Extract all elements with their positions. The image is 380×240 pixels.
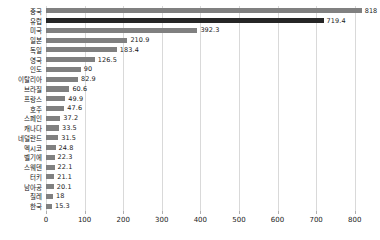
bar-row: 22.3	[46, 155, 374, 160]
bar-한국	[46, 204, 52, 209]
x-tick-label-100: 100	[78, 216, 91, 224]
bar-row: 22.1	[46, 165, 374, 170]
category-label-인도: 인도	[30, 64, 42, 74]
bar-value-label: 22.1	[58, 163, 73, 171]
bar-series: 818719.4392.3210.9183.4126.59082.960.649…	[46, 6, 374, 211]
bar-value-label: 818	[365, 7, 378, 15]
bar-chart: 중국유럽미국일본독일영국인도이탈리아브라질프랑스호주스페인캐나다네덜란드멕시코벨…	[0, 0, 380, 240]
bar-row: 82.9	[46, 77, 374, 82]
category-label-독일: 독일	[30, 45, 42, 55]
x-tick-400	[200, 211, 201, 214]
category-axis-labels: 중국유럽미국일본독일영국인도이탈리아브라질프랑스호주스페인캐나다네덜란드멕시코벨…	[0, 6, 44, 211]
bar-row: 392.3	[46, 28, 374, 33]
x-tick-100	[85, 211, 86, 214]
x-tick-label-300: 300	[155, 216, 168, 224]
bar-row: 20.1	[46, 184, 374, 189]
bar-벨기에	[46, 155, 55, 160]
bar-value-label: 31.5	[61, 134, 76, 142]
bar-value-label: 24.8	[59, 144, 74, 152]
bar-스웨덴	[46, 165, 55, 170]
bar-row: 21.1	[46, 174, 374, 179]
bar-유럽	[46, 18, 324, 23]
bar-남아공	[46, 184, 54, 189]
bar-row: 18	[46, 194, 374, 199]
bar-row: 31.5	[46, 135, 374, 140]
x-tick-label-700: 700	[309, 216, 322, 224]
bar-row: 37.2	[46, 116, 374, 121]
bar-value-label: 21.1	[57, 173, 72, 181]
bar-row: 49.9	[46, 96, 374, 101]
category-label-브라질: 브라질	[24, 84, 42, 94]
category-label-칠레: 칠레	[30, 191, 42, 201]
bar-row: 24.8	[46, 145, 374, 150]
bar-row: 15.3	[46, 204, 374, 209]
bar-value-label: 183.4	[120, 46, 139, 54]
plot-area: 818719.4392.3210.9183.4126.59082.960.649…	[46, 6, 374, 211]
bar-value-label: 18	[56, 192, 64, 200]
bar-row: 33.5	[46, 125, 374, 130]
x-tick-600	[278, 211, 279, 214]
category-label-호주: 호주	[30, 104, 42, 114]
bar-row: 126.5	[46, 57, 374, 62]
category-label-일본: 일본	[30, 35, 42, 45]
bar-캐나다	[46, 125, 59, 130]
bar-독일	[46, 47, 117, 52]
bar-칠레	[46, 194, 53, 199]
category-label-스페인: 스페인	[24, 113, 42, 123]
bar-멕시코	[46, 145, 56, 150]
x-tick-200	[123, 211, 124, 214]
bar-row: 719.4	[46, 18, 374, 23]
bar-터키	[46, 174, 54, 179]
bar-프랑스	[46, 96, 65, 101]
bar-value-label: 20.1	[57, 183, 72, 191]
bar-value-label: 126.5	[98, 56, 117, 64]
bar-row: 183.4	[46, 47, 374, 52]
x-tick-label-400: 400	[194, 216, 207, 224]
category-label-캐나다: 캐나다	[24, 123, 42, 133]
bar-네덜란드	[46, 135, 58, 140]
category-label-벨기에: 벨기에	[24, 152, 42, 162]
bar-중국	[46, 8, 362, 13]
x-tick-0	[46, 211, 47, 214]
bar-value-label: 90	[84, 65, 92, 73]
bar-스페인	[46, 116, 60, 121]
bar-value-label: 82.9	[81, 75, 96, 83]
bar-row: 818	[46, 8, 374, 13]
bar-value-label: 15.3	[55, 202, 70, 210]
bar-브라질	[46, 86, 69, 91]
bar-이탈리아	[46, 77, 78, 82]
bar-value-label: 33.5	[62, 124, 77, 132]
bar-영국	[46, 57, 95, 62]
x-tick-label-800: 800	[348, 216, 361, 224]
category-label-네덜란드: 네덜란드	[18, 133, 42, 143]
bar-미국	[46, 28, 197, 33]
bar-value-label: 210.9	[130, 36, 149, 44]
x-tick-800	[355, 211, 356, 214]
x-tick-300	[162, 211, 163, 214]
category-label-스웨덴: 스웨덴	[24, 162, 42, 172]
bar-value-label: 37.2	[63, 114, 78, 122]
bar-row: 60.6	[46, 86, 374, 91]
category-label-미국: 미국	[30, 25, 42, 35]
x-tick-label-600: 600	[271, 216, 284, 224]
bar-value-label: 47.6	[67, 104, 82, 112]
category-label-프랑스: 프랑스	[24, 94, 42, 104]
bar-인도	[46, 67, 81, 72]
bar-value-label: 392.3	[200, 26, 219, 34]
x-axis: 0100200300400500600700800	[46, 211, 374, 235]
bar-일본	[46, 38, 127, 43]
bar-row: 210.9	[46, 38, 374, 43]
category-label-터키: 터키	[30, 172, 42, 182]
bar-value-label: 719.4	[327, 17, 346, 25]
bar-value-label: 60.6	[72, 85, 87, 93]
x-tick-500	[239, 211, 240, 214]
category-label-남아공: 남아공	[24, 182, 42, 192]
bar-value-label: 49.9	[68, 95, 83, 103]
x-tick-700	[316, 211, 317, 214]
category-label-멕시코: 멕시코	[24, 143, 42, 153]
bar-호주	[46, 106, 64, 111]
category-label-이탈리아: 이탈리아	[18, 74, 42, 84]
bar-value-label: 22.3	[58, 153, 73, 161]
category-label-영국: 영국	[30, 55, 42, 65]
category-label-유럽: 유럽	[30, 16, 42, 26]
